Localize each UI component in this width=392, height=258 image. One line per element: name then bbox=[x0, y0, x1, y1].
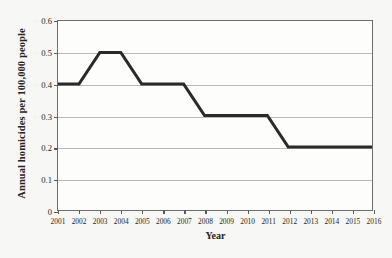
y-axis-title: Annual homicides per 100,000 people bbox=[16, 14, 27, 214]
x-tick-mark bbox=[227, 210, 228, 214]
x-tick-label: 2005 bbox=[135, 217, 150, 226]
x-tick-mark bbox=[79, 210, 80, 214]
x-tick-mark bbox=[269, 210, 270, 214]
x-tick-label: 2011 bbox=[261, 217, 276, 226]
x-tick-label: 2001 bbox=[51, 217, 66, 226]
y-tick-label: 0.3 bbox=[41, 112, 52, 122]
x-tick-label: 2013 bbox=[303, 217, 318, 226]
x-tick-mark bbox=[184, 210, 185, 214]
y-tick-label: 0.6 bbox=[41, 16, 52, 26]
x-tick-mark bbox=[142, 210, 143, 214]
x-tick-mark bbox=[332, 210, 333, 214]
x-tick-mark bbox=[290, 210, 291, 214]
x-tick-label: 2006 bbox=[156, 217, 171, 226]
x-tick-mark bbox=[311, 210, 312, 214]
x-tick-mark bbox=[353, 210, 354, 214]
x-tick-label: 2009 bbox=[219, 217, 234, 226]
x-tick-label: 2012 bbox=[282, 217, 297, 226]
x-tick-label: 2014 bbox=[324, 217, 339, 226]
x-tick-mark bbox=[205, 210, 206, 214]
x-tick-mark bbox=[163, 210, 164, 214]
x-tick-label: 2002 bbox=[72, 217, 87, 226]
x-tick-label: 2016 bbox=[367, 217, 382, 226]
x-tick-label: 2010 bbox=[240, 217, 255, 226]
plot-area: 00.10.20.30.40.50.6 20012002200320042005… bbox=[57, 20, 373, 211]
series-layer bbox=[58, 21, 372, 210]
x-tick-label: 2003 bbox=[93, 217, 108, 226]
line-chart-figure: Annual homicides per 100,000 people 00.1… bbox=[0, 0, 392, 258]
y-tick-label: 0.5 bbox=[41, 48, 52, 58]
x-tick-label: 2004 bbox=[114, 217, 129, 226]
x-tick-mark bbox=[121, 210, 122, 214]
x-tick-label: 2015 bbox=[346, 217, 361, 226]
x-tick-mark bbox=[248, 210, 249, 214]
x-tick-label: 2008 bbox=[198, 217, 213, 226]
y-tick-label: 0.4 bbox=[41, 80, 52, 90]
x-tick-mark bbox=[58, 210, 59, 214]
x-axis-title: Year bbox=[57, 230, 374, 241]
x-tick-mark bbox=[100, 210, 101, 214]
x-tick-label: 2007 bbox=[177, 217, 192, 226]
x-tick-mark bbox=[374, 210, 375, 214]
y-tick-label: 0 bbox=[48, 207, 52, 217]
series-line-homicides bbox=[58, 52, 372, 147]
y-tick-label: 0.2 bbox=[41, 143, 52, 153]
y-tick-label: 0.1 bbox=[41, 175, 52, 185]
